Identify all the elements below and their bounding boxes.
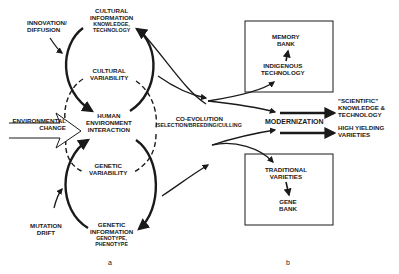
coevolution-line-1: CO-EVOLUTION — [157, 115, 242, 122]
scientific-line-1: "SCIENTIFIC" — [338, 97, 385, 104]
gene-line-2: BANK — [279, 205, 297, 212]
mutation-line-1: MUTATION — [30, 222, 62, 229]
traditional-line-2: VARIETIES — [265, 173, 307, 180]
human-environment-line-1: HUMAN — [86, 112, 132, 119]
innovation-line-1: INNOVATION/ — [27, 19, 67, 26]
environmental-change-line-2: CHANGE — [8, 124, 66, 131]
traditional-varieties-label: TRADITIONAL VARIETIES — [265, 166, 307, 180]
environmental-change-label: ENVIRONMENTAL CHANGE — [8, 117, 66, 131]
indigenous-to-memory-arrow — [286, 51, 288, 61]
gene-bank-box — [245, 154, 333, 225]
human-environment-node: HUMAN ENVIRONMENT INTERACTION — [86, 112, 132, 133]
modernization-label: MODERNIZATION — [265, 118, 324, 126]
scientific-line-3: TECHNOLOGY — [338, 111, 385, 118]
mutation-drift-label: MUTATION DRIFT — [30, 222, 62, 236]
panel-a-label: a — [108, 259, 112, 267]
coevolution-diagram: CULTURAL INFORMATION KNOWLEDGE, TECHNOLO… — [0, 0, 399, 274]
genetic-variability-label: GENETIC VARIABILITY — [89, 162, 127, 176]
scientific-knowledge-label: "SCIENTIFIC" KNOWLEDGE & TECHNOLOGY — [338, 97, 385, 118]
memory-line-2: BANK — [272, 40, 300, 47]
genetic-information-title-1: GENETIC — [90, 221, 133, 228]
genetic-variability-line-1: GENETIC — [89, 162, 127, 169]
high-yielding-line-1: HIGH YIELDING — [338, 124, 384, 131]
innovation-diffusion-label: INNOVATION/ DIFFUSION — [27, 19, 67, 33]
cultural-variability-line-2: VARIABILITY — [90, 74, 128, 81]
genetic-information-node: GENETIC INFORMATION GENOTYPE, PHENOTYPE — [90, 221, 133, 247]
genetic-cycle-arrows — [66, 140, 156, 229]
high-yielding-label: HIGH YIELDING VARIETIES — [338, 124, 384, 138]
mutation-arrow — [54, 189, 62, 208]
panel-b-label: b — [286, 259, 290, 267]
indigenous-line-1: INDIGENOUS — [261, 62, 305, 69]
genetic-information-sub-2: PHENOTYPE — [90, 241, 133, 247]
gene-bank-label: GENE BANK — [279, 198, 297, 212]
genetic-information-title-2: INFORMATION — [90, 228, 133, 235]
coevolution-line-2: SELECTION/BREEDING/CULLING — [157, 122, 242, 128]
memory-bank-box — [245, 21, 333, 92]
human-environment-line-3: INTERACTION — [86, 126, 132, 133]
traditional-line-1: TRADITIONAL — [265, 166, 307, 173]
high-yielding-line-2: VARIETIES — [338, 131, 384, 138]
innovation-line-2: DIFFUSION — [27, 26, 67, 33]
scientific-line-2: KNOWLEDGE & — [338, 104, 385, 111]
coevolution-arrows — [140, 30, 275, 196]
genetic-variability-line-2: VARIABILITY — [89, 169, 127, 176]
cultural-information-title: CULTURAL — [90, 7, 133, 14]
cultural-variability-line-1: CULTURAL — [90, 67, 128, 74]
gene-line-1: GENE — [279, 198, 297, 205]
coevolution-label: CO-EVOLUTION SELECTION/BREEDING/CULLING — [157, 115, 242, 128]
cultural-information-sub-2: TECHNOLOGY — [90, 27, 133, 33]
memory-bank-label: MEMORY BANK — [272, 33, 300, 47]
innovation-arrow — [50, 38, 62, 53]
environmental-change-line-1: ENVIRONMENTAL — [8, 117, 66, 124]
cultural-variability-label: CULTURAL VARIABILITY — [90, 67, 128, 81]
memory-line-1: MEMORY — [272, 33, 300, 40]
traditional-to-gene-arrow — [286, 182, 289, 195]
human-environment-line-2: ENVIRONMENT — [86, 119, 132, 126]
indigenous-technology-label: INDIGENOUS TECHNOLOGY — [261, 62, 305, 76]
cultural-information-title-2: INFORMATION — [90, 14, 133, 21]
cultural-information-node: CULTURAL INFORMATION KNOWLEDGE, TECHNOLO… — [90, 7, 133, 33]
mutation-line-2: DRIFT — [30, 229, 62, 236]
indigenous-line-2: TECHNOLOGY — [261, 69, 305, 76]
